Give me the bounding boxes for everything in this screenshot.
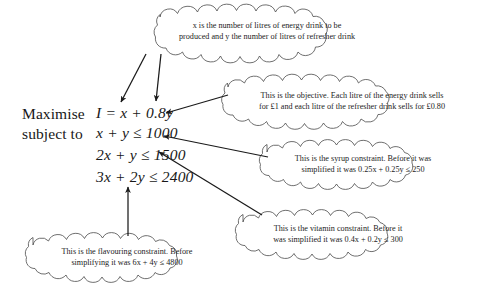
variables-cloud-text: x is the number of litres of energy drin…: [148, 20, 386, 42]
variables-cloud-line1: x is the number of litres of energy drin…: [148, 20, 386, 31]
objective-cloud-text: This is the objective. Each litre of the…: [232, 90, 472, 112]
syrup-cloud-line2: simplified it was 0.25x + 0.25y ≤ 250: [270, 164, 456, 175]
objective-cloud-line2: for £1 and each litre of the refresher d…: [232, 101, 472, 112]
subject-to-keyword: subject to: [22, 125, 83, 143]
constraint-1-equation: x + y ≤ 1000: [96, 124, 178, 142]
flavouring-cloud-text: This is the flavouring constraint. Befor…: [36, 246, 218, 268]
vitamin-cloud-line1: This is the vitamin constraint. Before i…: [246, 223, 430, 234]
constraint-2-equation: 2x + y ≤ 1500: [96, 146, 186, 164]
arrow-variables-to-coefficient: [156, 54, 161, 101]
syrup-cloud-text: This is the syrup constraint. Before it …: [270, 153, 456, 175]
vitamin-cloud-text: This is the vitamin constraint. Before i…: [246, 223, 430, 245]
arrow-variables-to-x: [121, 54, 146, 102]
maximise-keyword: Maximise: [22, 105, 85, 123]
objective-cloud-line1: This is the objective. Each litre of the…: [232, 90, 472, 101]
vitamin-cloud-line2: was simplified it was 0.4x + 0.2y ≤ 300: [246, 234, 430, 245]
flavouring-cloud-line1: This is the flavouring constraint. Befor…: [36, 246, 218, 257]
constraint-3-equation: 3x + 2y ≤ 2400: [96, 168, 194, 186]
diagram-canvas: Maximise subject to I = x + 0.8y x + y ≤…: [0, 0, 482, 295]
arrow-objective-to-equation: [166, 95, 228, 113]
flavouring-cloud-line2: simplifying it was 6x + 4y ≤ 4800: [36, 257, 218, 268]
syrup-cloud-line1: This is the syrup constraint. Before it …: [270, 153, 456, 164]
variables-cloud-line2: produced and y the number of litres of r…: [148, 31, 386, 42]
objective-equation: I = x + 0.8y: [96, 104, 173, 122]
